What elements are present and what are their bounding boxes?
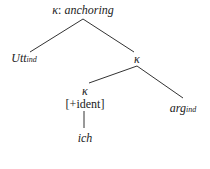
edge-mid-right [137,66,183,98]
feature-label: [+ident] [66,98,105,110]
left-leaf-sub: ind [27,55,37,64]
left-leaf-node: Uttind [11,52,37,66]
left-leaf-base: Utt [11,51,26,65]
root-node: κ: anchoring [52,4,113,16]
lower-leaf-node: ich [78,132,93,144]
right-leaf-base: arg [170,101,186,115]
edge-root-mid [83,19,134,52]
edge-root-left [30,19,83,52]
root-label: anchoring [64,3,113,17]
mid-node: κ [134,53,140,65]
lower-node: κ [82,85,88,97]
right-leaf-node: argind [170,102,196,116]
edge-mid-lower [89,66,137,83]
right-leaf-sub: ind [186,105,196,114]
tree-edges [0,0,210,169]
